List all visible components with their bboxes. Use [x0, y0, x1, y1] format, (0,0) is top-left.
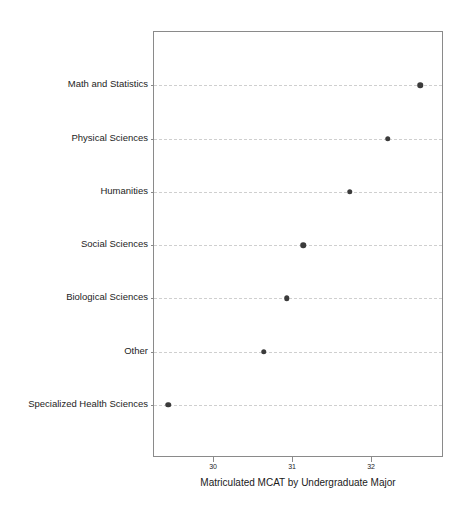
x-axis: 303132	[153, 457, 443, 477]
y-axis-label: Social Sciences	[0, 239, 148, 249]
dot-plot-figure: Math and StatisticsPhysical SciencesHuma…	[0, 0, 464, 511]
y-axis-tick	[151, 85, 154, 86]
plot-area	[153, 31, 443, 457]
gridline	[154, 139, 442, 140]
gridline	[154, 352, 442, 353]
data-point[interactable]	[284, 296, 290, 302]
x-axis-tick-label: 31	[288, 463, 296, 471]
gridline	[154, 245, 442, 246]
y-axis-label: Biological Sciences	[0, 292, 148, 302]
y-axis-tick	[151, 139, 154, 140]
data-point[interactable]	[261, 349, 267, 355]
y-axis-label: Other	[0, 346, 148, 356]
x-axis-tick-label: 32	[367, 463, 375, 471]
y-axis-tick	[151, 352, 154, 353]
x-axis-tick	[213, 457, 214, 462]
data-point[interactable]	[385, 136, 391, 142]
x-axis-tick	[371, 457, 372, 462]
gridline	[154, 405, 442, 406]
data-point[interactable]	[301, 242, 307, 248]
gridline	[154, 298, 442, 299]
y-axis-label: Specialized Health Sciences	[0, 399, 148, 409]
y-axis-tick	[151, 298, 154, 299]
data-point[interactable]	[418, 83, 424, 89]
y-axis-tick	[151, 192, 154, 193]
gridline	[154, 85, 442, 86]
y-axis-label: Humanities	[0, 186, 148, 196]
gridline	[154, 192, 442, 193]
y-axis-label: Math and Statistics	[0, 79, 148, 89]
x-axis-tick	[292, 457, 293, 462]
data-point[interactable]	[165, 402, 171, 408]
data-point[interactable]	[347, 189, 353, 195]
y-axis-tick	[151, 245, 154, 246]
x-axis-title: Matriculated MCAT by Undergraduate Major	[153, 477, 443, 489]
y-axis-label: Physical Sciences	[0, 133, 148, 143]
y-axis-tick	[151, 405, 154, 406]
x-axis-tick-label: 30	[209, 463, 217, 471]
